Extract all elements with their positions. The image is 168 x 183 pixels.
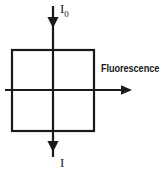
transmitted-beam-arrowhead <box>47 141 58 152</box>
fluorescence-diagram: I0 I Fluorescence <box>0 0 168 183</box>
incident-intensity-subscript: 0 <box>64 9 69 19</box>
transmitted-intensity-label: I <box>60 156 64 169</box>
fluorescence-schematic-svg <box>0 0 168 183</box>
incident-beam-arrowhead <box>47 17 58 28</box>
fluorescence-arrowhead <box>121 85 132 95</box>
fluorescence-label: Fluorescence <box>101 64 159 74</box>
incident-intensity-label: I0 <box>60 2 69 19</box>
